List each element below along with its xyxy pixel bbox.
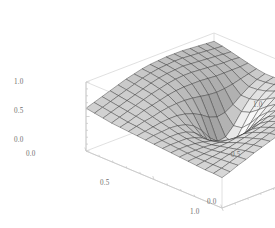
y-tick-2: 0.5 bbox=[231, 152, 241, 159]
surface-plot-figure: 1.0 0.5 0.0 0.0 0.5 1.0 0.0 0.5 1.0 bbox=[0, 0, 275, 228]
x-tick-1: 0.0 bbox=[26, 151, 36, 158]
y-tick-1: 0.0 bbox=[207, 199, 217, 206]
plot-canvas bbox=[0, 0, 275, 228]
z-tick-3: 0.0 bbox=[14, 137, 24, 144]
x-tick-2: 0.5 bbox=[100, 180, 110, 187]
z-tick-2: 0.5 bbox=[14, 108, 24, 115]
x-tick-3: 1.0 bbox=[190, 209, 200, 216]
z-tick-1: 1.0 bbox=[14, 79, 24, 86]
y-tick-3: 1.0 bbox=[253, 102, 263, 109]
surface-mesh bbox=[86, 41, 275, 177]
